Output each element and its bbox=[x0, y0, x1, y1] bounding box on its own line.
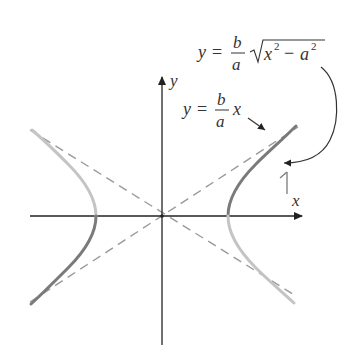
origin-dot bbox=[160, 214, 164, 218]
left-branch-lower bbox=[31, 216, 96, 304]
eq1-minus: − bbox=[284, 43, 294, 63]
asymptote-equation: y = b a x bbox=[181, 90, 241, 131]
hyperbola bbox=[31, 126, 296, 304]
right-branch-upper bbox=[228, 126, 296, 216]
eq1-radicand-a: a bbox=[300, 44, 309, 64]
hyperbola-pointer-arrow bbox=[284, 67, 337, 163]
eq2-equals: = bbox=[197, 99, 207, 119]
eq2-var: x bbox=[232, 99, 241, 119]
y-axis-label: y bbox=[168, 71, 178, 90]
axes bbox=[30, 77, 302, 345]
eq1-numerator: b bbox=[233, 33, 242, 52]
eq1-equals: = bbox=[212, 42, 222, 62]
asymptotes bbox=[30, 127, 298, 302]
eq1-radicand-x: x bbox=[263, 44, 272, 64]
asymptote-negative-slope bbox=[30, 130, 296, 296]
eq2-lhs: y bbox=[181, 99, 191, 119]
gap-marker-diag bbox=[280, 172, 287, 178]
eq2-denominator: a bbox=[216, 112, 225, 131]
eq1-lhs: y bbox=[196, 42, 206, 62]
asymptote-positive-slope bbox=[30, 127, 298, 302]
eq2-numerator: b bbox=[217, 90, 226, 109]
hyperbola-equation: y = b a x 2 − a 2 bbox=[196, 33, 325, 74]
eq1-exp1: 2 bbox=[274, 40, 280, 52]
left-branch-upper bbox=[32, 130, 96, 216]
eq1-exp2: 2 bbox=[311, 40, 317, 52]
asymptote-pointer-arrow bbox=[248, 118, 265, 130]
x-axis-label: x bbox=[291, 191, 300, 210]
eq1-denominator: a bbox=[232, 55, 241, 74]
hyperbola-diagram: y x y = b a x 2 − a 2 y = b a x bbox=[0, 0, 354, 357]
